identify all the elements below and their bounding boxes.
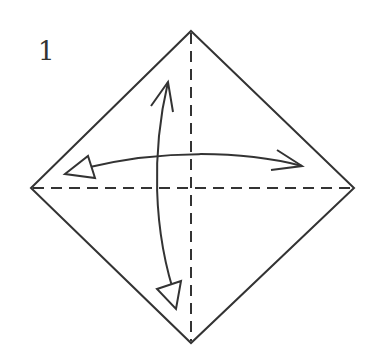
diagram-canvas xyxy=(0,0,385,359)
vertical-fold-arrow xyxy=(151,82,181,309)
horizontal-arrow-shaft xyxy=(90,154,302,167)
hollow-arrowhead-icon xyxy=(157,281,181,309)
hollow-arrowhead-icon xyxy=(65,156,95,178)
horizontal-fold-arrow xyxy=(65,150,302,178)
origami-diagram: 1 xyxy=(0,0,385,359)
vertical-arrow-shaft xyxy=(157,82,177,302)
